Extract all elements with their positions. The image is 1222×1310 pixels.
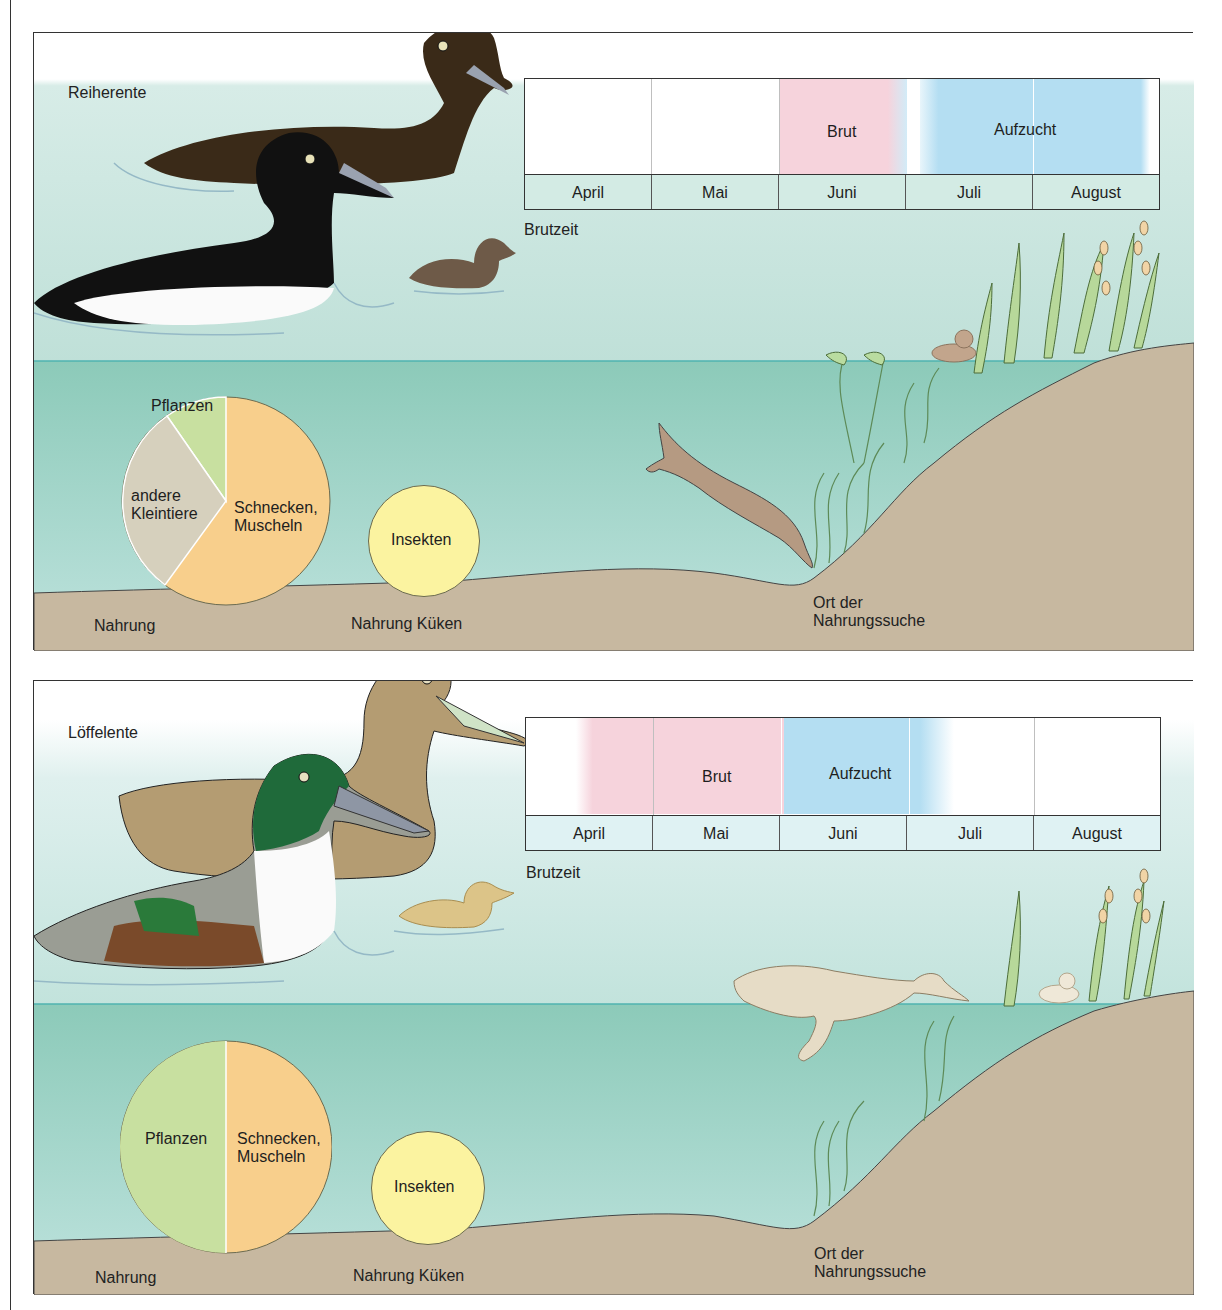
month-juni: Juni — [779, 816, 906, 850]
chick-diet-caption: Nahrung Küken — [353, 1267, 464, 1285]
month-april: April — [526, 816, 652, 850]
timeline-caption: Brutzeit — [526, 864, 580, 882]
brut-band — [576, 718, 784, 814]
month-mai: Mai — [652, 816, 779, 850]
phase-label-aufzucht: Aufzucht — [829, 765, 891, 783]
month-juli: Juli — [906, 816, 1033, 850]
slice-label-andere-2: Kleintiere — [131, 505, 198, 523]
slice-label-pflanzen: Pflanzen — [151, 397, 213, 415]
timeline-caption: Brutzeit — [524, 221, 578, 239]
diet-caption: Nahrung — [95, 1269, 156, 1287]
panel-reiherente: Reiherente Brut Aufzucht April Mai Juni … — [33, 32, 1193, 650]
month-april: April — [525, 175, 651, 209]
slice-label-schnecken-1: Schnecken, — [234, 499, 318, 517]
slice-label-schnecken-2: Muscheln — [237, 1148, 305, 1166]
species-name: Löffelente — [68, 724, 138, 742]
month-august: August — [1033, 816, 1160, 850]
month-juli: Juli — [905, 175, 1032, 209]
breeding-timeline: Brut Aufzucht April Mai Juni Juli August — [524, 78, 1160, 210]
feeding-place-line2: Nahrungssuche — [813, 612, 925, 630]
left-margin-rule — [10, 0, 11, 1310]
slice-label-schnecken-2: Muscheln — [234, 517, 302, 535]
chick-diet-caption: Nahrung Küken — [351, 615, 462, 633]
diet-caption: Nahrung — [94, 617, 155, 635]
phase-label-aufzucht: Aufzucht — [994, 121, 1056, 139]
breeding-timeline: Brut Aufzucht April Mai Juni Juli August — [525, 717, 1161, 851]
month-row: April Mai Juni Juli August — [526, 815, 1160, 850]
month-juni: Juni — [778, 175, 905, 209]
panel-loeffelente: Löffelente Brut Aufzucht April Mai Juni … — [33, 680, 1193, 1294]
species-name: Reiherente — [68, 84, 146, 102]
month-august: August — [1032, 175, 1159, 209]
chick-diet-label: Insekten — [391, 531, 451, 549]
phase-label-brut: Brut — [827, 123, 856, 141]
slice-label-schnecken-1: Schnecken, — [237, 1130, 321, 1148]
slice-label-andere-1: andere — [131, 487, 181, 505]
feeding-place-line1: Ort der — [814, 1245, 864, 1263]
chick-diet-label: Insekten — [394, 1178, 454, 1196]
slice-label-pflanzen: Pflanzen — [145, 1130, 207, 1148]
phase-label-brut: Brut — [702, 768, 731, 786]
month-row: April Mai Juni Juli August — [525, 174, 1159, 209]
feeding-place-line1: Ort der — [813, 594, 863, 612]
feeding-place-line2: Nahrungssuche — [814, 1263, 926, 1281]
month-mai: Mai — [651, 175, 778, 209]
